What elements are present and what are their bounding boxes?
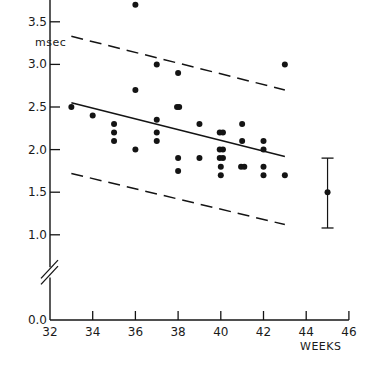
data-point [175, 155, 181, 161]
data-point [261, 172, 267, 178]
data-point [239, 121, 245, 127]
data-point [154, 61, 160, 67]
data-point [68, 104, 74, 110]
data-point [220, 147, 226, 153]
data-point [261, 147, 267, 153]
data-point [111, 138, 117, 144]
data-point [261, 138, 267, 144]
data-point [111, 130, 117, 136]
data-point [154, 117, 160, 123]
data-point [176, 104, 182, 110]
data-point [261, 164, 267, 170]
y-tick-label: 3.5 [28, 15, 47, 29]
x-axis-label: WEEKS [300, 340, 341, 353]
scatter-chart: 0.01.01.52.02.53.03.54.03234363840424446… [0, 0, 370, 365]
data-point [111, 121, 117, 127]
x-tick-label: 44 [299, 325, 314, 339]
confidence-limit-line [71, 173, 285, 224]
regression-line [71, 103, 285, 157]
axes: 0.01.01.52.02.53.03.54.03234363840424446 [28, 0, 357, 339]
error-bar-mean-point [325, 189, 331, 195]
data-point [220, 130, 226, 136]
y-tick-label: 2.5 [28, 100, 47, 114]
y-tick-label: 2.0 [28, 143, 47, 157]
data-point [132, 147, 138, 153]
confidence-limit-line [71, 36, 285, 90]
trend-lines [71, 36, 285, 224]
data-point [154, 130, 160, 136]
data-point [196, 155, 202, 161]
data-point [218, 172, 224, 178]
x-tick-label: 36 [128, 325, 143, 339]
y-tick-label: 3.0 [28, 57, 47, 71]
x-tick-label: 42 [256, 325, 271, 339]
data-point [220, 155, 226, 161]
x-tick-label: 38 [170, 325, 185, 339]
y-axis-label: msec [35, 36, 66, 49]
data-point [90, 113, 96, 119]
data-point [239, 138, 245, 144]
y-tick-label: 1.0 [28, 228, 47, 242]
data-point [175, 168, 181, 174]
data-point [218, 164, 224, 170]
data-point [282, 172, 288, 178]
x-tick-label: 32 [42, 325, 57, 339]
data-points [68, 2, 288, 178]
x-tick-label: 34 [85, 325, 100, 339]
data-point [196, 121, 202, 127]
x-tick-label: 40 [213, 325, 228, 339]
data-point [132, 87, 138, 93]
y-tick-label: 1.5 [28, 185, 47, 199]
data-point [132, 2, 138, 8]
error-bar [322, 158, 334, 228]
data-point [154, 138, 160, 144]
x-tick-label: 46 [341, 325, 356, 339]
data-point [241, 164, 247, 170]
data-point [282, 61, 288, 67]
data-point [175, 70, 181, 76]
